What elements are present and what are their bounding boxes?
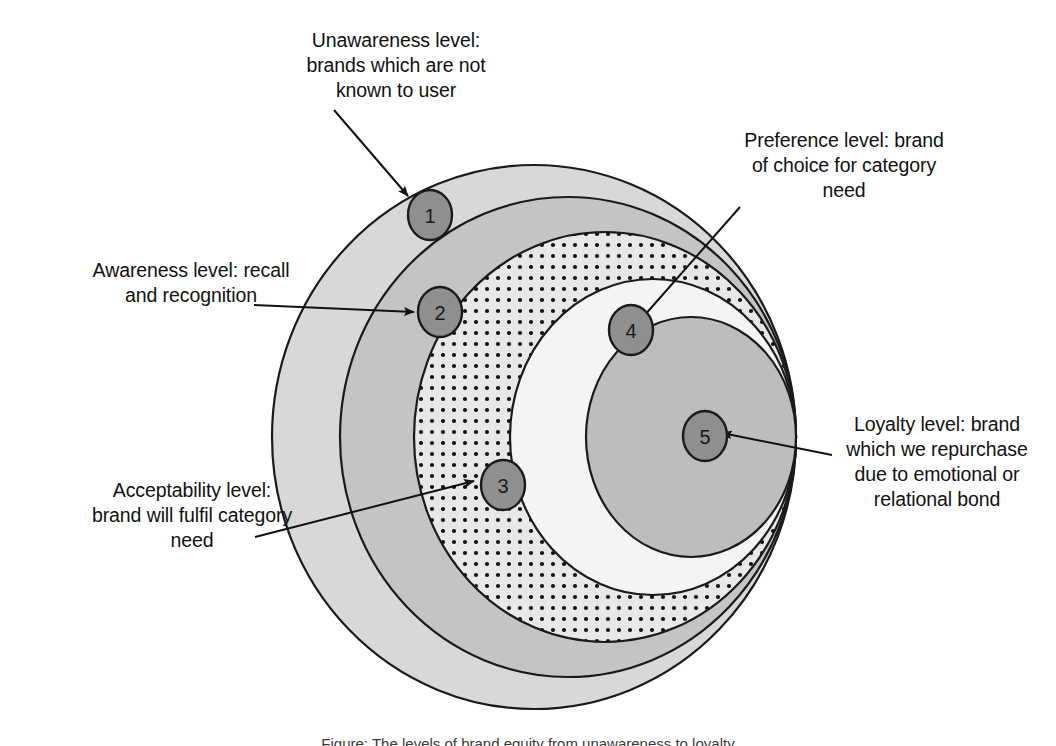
marker-3[interactable]: 3 — [481, 460, 525, 510]
figure-caption: Figure: The levels of brand equity from … — [0, 735, 1056, 746]
callout-unawareness-level: Unawareness level: brands which are not … — [246, 28, 546, 103]
callout-preference-level: Preference level: brand of choice for ca… — [700, 128, 988, 203]
callout-loyalty-level: Loyalty level: brand which we repurchase… — [818, 412, 1056, 512]
marker-4-label: 4 — [625, 320, 636, 342]
brand-equity-nested-ellipses: 1 2 3 4 5 — [0, 0, 1056, 746]
marker-2-label: 2 — [434, 302, 445, 324]
marker-5[interactable]: 5 — [683, 411, 727, 461]
marker-5-label: 5 — [699, 426, 710, 448]
diagram-canvas: 1 2 3 4 5 Unawareness level: brands whic… — [0, 0, 1056, 746]
leader-line-unawareness — [334, 110, 408, 196]
marker-1-label: 1 — [424, 205, 435, 227]
marker-2[interactable]: 2 — [418, 287, 462, 337]
callout-awareness-level: Awareness level: recall and recognition — [26, 258, 356, 308]
marker-1[interactable]: 1 — [408, 190, 452, 240]
marker-4[interactable]: 4 — [609, 305, 653, 355]
callout-acceptability-level: Acceptability level: brand will fulfil c… — [22, 478, 362, 553]
marker-3-label: 3 — [497, 475, 508, 497]
